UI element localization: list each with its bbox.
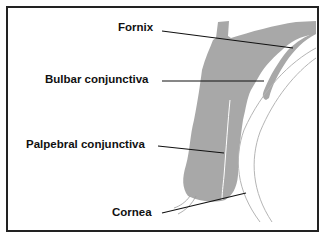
eye-anatomy-illustration bbox=[0, 0, 325, 234]
fornix-label: Fornix bbox=[118, 22, 153, 34]
palpebral-conjunctiva-label: Palpebral conjunctiva bbox=[26, 139, 145, 151]
eyelash-2 bbox=[174, 196, 190, 208]
bulbar-conjunctiva-label: Bulbar conjunctiva bbox=[45, 74, 149, 86]
cornea-label: Cornea bbox=[112, 207, 152, 219]
